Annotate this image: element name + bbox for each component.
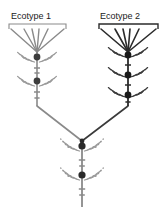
stem-ecotype-2-whorl-1-leaf-1-3 <box>141 66 149 73</box>
stem-basal-node-1 <box>78 171 85 178</box>
diagram-canvas <box>0 0 165 215</box>
fan-ecotype-1-ray-5 <box>37 29 64 52</box>
stem-basal-whorl-1-leaf-1-3 <box>95 168 104 176</box>
junction-left-arm <box>37 106 82 141</box>
stem-ecotype-2-whorl-2-leaf--1-3 <box>107 86 115 93</box>
stem-ecotype-1-whorl-0-leaf-1-3 <box>50 51 58 58</box>
label-ecotype-1: Ecotype 1 <box>11 11 51 22</box>
label-ecotype-2: Ecotype 2 <box>100 11 140 22</box>
bracket-ecotype-2 <box>99 24 158 29</box>
stem-ecotype-2-node-1 <box>125 72 132 79</box>
bracket-ecotype-1 <box>9 24 66 29</box>
stem-ecotype-1-whorl-0-leaf--1-3 <box>16 51 24 58</box>
stem-ecotype-2-node-0 <box>125 52 132 59</box>
fan-layer <box>11 29 156 52</box>
stem-basal-whorl-1-leaf--1-3 <box>61 168 70 176</box>
stem-ecotype-2-whorl-1-leaf--1-3 <box>107 66 115 73</box>
fan-ecotype-2-ray-5 <box>128 29 156 52</box>
junction-apex-node <box>80 139 85 144</box>
stem-ecotype-1-node-0 <box>34 54 41 61</box>
stem-ecotype-1-whorl-1-leaf--1-3 <box>16 75 24 82</box>
stem-ecotype-2-node-2 <box>125 92 132 99</box>
stem-ecotype-2-whorl-0-leaf--1-3 <box>107 46 115 53</box>
stem-basal-node-0 <box>78 142 85 149</box>
stem-ecotype-2-whorl-2-leaf-1-3 <box>141 86 149 93</box>
stem-ecotype-2-whorl-0-leaf-1-3 <box>141 46 149 53</box>
stem-basal-whorl-0-leaf--1-3 <box>61 139 70 147</box>
stem-basal-whorl-0-leaf-1-3 <box>95 139 104 147</box>
stem-ecotype-1-node-1 <box>34 78 41 85</box>
junction-layer <box>37 106 128 141</box>
stem-ecotype-1-whorl-1-leaf-1-3 <box>50 75 58 82</box>
bracket-layer <box>9 24 158 29</box>
ecotype-branching-figure: Ecotype 1 Ecotype 2 <box>0 0 165 215</box>
junction-right-arm <box>82 106 128 141</box>
